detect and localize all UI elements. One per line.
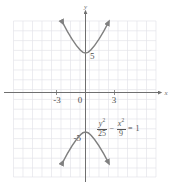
hyperbola-figure: x y -3 0 3 5 -5 y2 25 − x2 9 = 1	[0, 0, 173, 196]
figure-background	[0, 0, 173, 196]
equation-fraction-2: x2 9	[117, 120, 126, 138]
equation-numerator-1-exponent: 2	[102, 117, 105, 123]
equation-fraction-1: y2 25	[97, 120, 107, 138]
equation-right-side: 1	[136, 125, 140, 133]
equation-denominator-1: 25	[97, 130, 107, 139]
equation-minus-operator: −	[110, 125, 115, 133]
y-tick-label-pos5: 5	[90, 51, 95, 61]
equation-annotation: y2 25 − x2 9 = 1	[96, 117, 148, 141]
coordinate-graph: x y -3 0 3 5 -5	[0, 0, 173, 196]
equation-numerator-1: y2	[98, 120, 106, 129]
x-tick-label-pos3: 3	[112, 95, 117, 105]
equation-numerator-2-exponent: 2	[121, 117, 124, 123]
equation-equals-sign: =	[128, 125, 133, 133]
equation-denominator-2: 9	[118, 130, 124, 139]
equation-numerator-2: x2	[117, 120, 125, 129]
x-tick-label-zero: 0	[78, 95, 83, 105]
x-tick-label-neg3: -3	[53, 95, 61, 105]
